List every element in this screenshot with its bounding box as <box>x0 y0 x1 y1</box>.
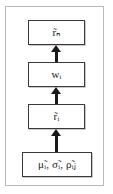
node-box-weights-wi: wᵢ <box>28 62 85 87</box>
arrow-shaft <box>55 50 58 62</box>
arrow-up-icon-inputs-to-ri <box>51 129 62 152</box>
arrow-up-icon-ri-to-wi <box>51 87 62 104</box>
arrow-shaft <box>55 134 58 152</box>
arrow-shaft <box>55 92 58 104</box>
node-box-output-rn: r̃ₙ <box>28 20 85 45</box>
arrow-up-icon-wi-to-rn <box>51 45 62 62</box>
node-label-ri: r̃ᵢ <box>54 111 60 122</box>
node-label-inputs: μ̃ᵢ, σ̃ᵢ, ρ̃ᵢⱼ <box>38 159 76 170</box>
node-label-rn: r̃ₙ <box>52 27 60 38</box>
node-box-intermediate-ri: r̃ᵢ <box>28 104 85 129</box>
node-box-inputs: μ̃ᵢ, σ̃ᵢ, ρ̃ᵢⱼ <box>22 152 92 177</box>
node-label-wi: wᵢ <box>51 69 61 80</box>
